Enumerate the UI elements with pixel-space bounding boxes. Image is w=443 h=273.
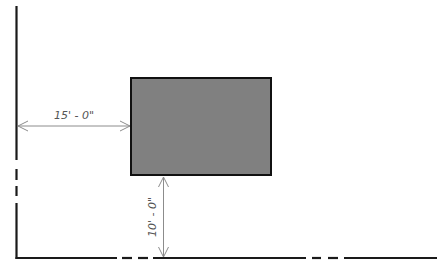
vertical-dimension-label: 10' - 0"	[146, 197, 159, 237]
horizontal-dimension	[18, 121, 130, 131]
vertical-dimension	[159, 177, 169, 257]
horizontal-dimension-label: 15' - 0"	[54, 109, 94, 122]
building-footprint	[131, 78, 271, 175]
site-plan-drawing: 15' - 0" 10' - 0"	[0, 0, 443, 273]
